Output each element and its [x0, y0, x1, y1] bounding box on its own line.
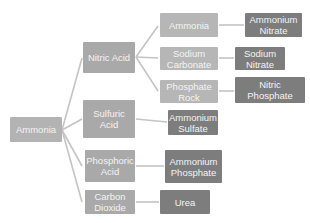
node-label: Nitric Phosphate	[237, 79, 303, 101]
node-label: Ammonia	[169, 20, 209, 31]
node-ammonia-reactant: Ammonia	[160, 13, 218, 37]
node-ammonium-sulfate: Ammonium Sulfate	[168, 110, 218, 135]
node-root-ammonia: Ammonia	[10, 117, 62, 142]
node-label: Urea	[175, 197, 196, 208]
node-ammonium-nitrate: Ammonium Nitrate	[245, 13, 302, 37]
node-ammonium-phosphate: Ammonium Phosphate	[165, 150, 222, 183]
node-sulfuric-acid: Sulfuric Acid	[83, 100, 135, 138]
node-carbon-dioxide: Carbon Dioxide	[85, 190, 135, 214]
node-label: Phosphoric Acid	[86, 155, 134, 177]
node-label: Nitric Acid	[88, 52, 130, 63]
connector-root-carbon-dioxide	[62, 130, 82, 202]
connector-nitric-sodium-carbonate	[136, 57, 158, 58]
node-label: Sulfuric Acid	[85, 108, 133, 130]
node-nitric-acid: Nitric Acid	[83, 42, 135, 73]
node-label: Sodium Nitrate	[237, 48, 283, 70]
node-sodium-carbonate: Sodium Carbonate	[160, 47, 218, 70]
node-phosphoric-acid: Phosphoric Acid	[85, 150, 135, 182]
node-urea: Urea	[160, 190, 210, 214]
connector-root-nitric-acid	[62, 58, 82, 130]
node-sodium-nitrate: Sodium Nitrate	[235, 47, 285, 70]
connector-nitric-ammonia	[136, 26, 158, 57]
node-label: Ammonia	[16, 124, 56, 135]
node-label: Ammonium Sulfate	[169, 112, 217, 134]
connector-nitric-phosphate-rock	[136, 57, 158, 91]
node-label: Ammonium Nitrate	[247, 14, 300, 36]
node-nitric-phosphate: Nitric Phosphate	[235, 77, 305, 103]
node-label: Phosphate Rock	[162, 81, 216, 103]
node-label: Ammonium Phosphate	[167, 156, 220, 178]
node-label: Carbon Dioxide	[87, 191, 133, 213]
connector-root-phosphoric-acid	[62, 130, 82, 166]
connector-sulfuric-ammonium-sulfate	[136, 119, 167, 122]
node-label: Sodium Carbonate	[162, 48, 216, 70]
node-phosphate-rock: Phosphate Rock	[160, 80, 218, 103]
